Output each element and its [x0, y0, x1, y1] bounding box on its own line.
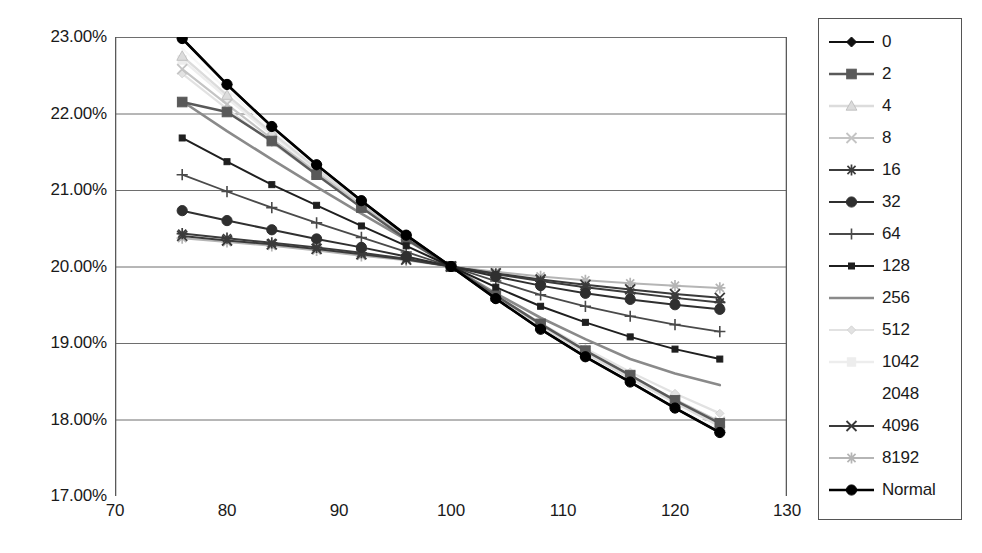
legend-swatch-icon	[828, 160, 875, 180]
legend-swatch-icon	[828, 288, 875, 308]
marker-plus	[356, 232, 367, 243]
plot-area	[115, 37, 787, 496]
series-32	[177, 206, 725, 315]
series-128	[179, 135, 723, 362]
marker-circle	[670, 300, 680, 310]
marker-circle	[715, 427, 725, 437]
marker-circle	[401, 251, 411, 261]
legend-item-1042[interactable]: 1042	[819, 346, 961, 378]
marker-plus	[177, 169, 188, 180]
series-line	[182, 39, 720, 433]
legend-swatch-icon	[828, 224, 875, 244]
marker-circle	[356, 196, 366, 206]
marker-asterisk	[714, 282, 725, 293]
y-tick-label: 20.00%	[51, 257, 107, 277]
marker-square	[267, 136, 277, 146]
marker-diamond	[847, 37, 857, 47]
legend-label: 64	[882, 224, 901, 244]
marker-plus	[625, 311, 636, 322]
marker-circle	[177, 37, 187, 44]
legend-label: 2048	[882, 384, 919, 404]
marker-plus	[266, 202, 277, 213]
legend-item-8192[interactable]: 8192	[819, 442, 961, 474]
marker-faint-square	[847, 358, 855, 366]
marker-small-square	[403, 243, 409, 249]
marker-circle	[312, 160, 322, 170]
legend-label: 16	[882, 160, 901, 180]
marker-circle	[536, 324, 546, 334]
marker-circle	[222, 216, 232, 226]
legend-item-64[interactable]: 64	[819, 218, 961, 250]
legend-item-128[interactable]: 128	[819, 250, 961, 282]
series-line	[182, 48, 720, 429]
legend-label: 0	[882, 32, 891, 52]
marker-plus	[580, 301, 591, 312]
marker-circle	[625, 377, 635, 387]
legend-label: 32	[882, 192, 901, 212]
marker-square	[222, 107, 232, 117]
legend-swatch-icon	[828, 96, 875, 116]
marker-small-square	[314, 202, 320, 208]
marker-circle	[846, 197, 856, 207]
legend-swatch-icon	[828, 192, 875, 212]
marker-small-square	[582, 319, 588, 325]
legend-label: 4096	[882, 416, 919, 436]
legend-item-512[interactable]: 512	[819, 314, 961, 346]
legend-item-8[interactable]: 8	[819, 122, 961, 154]
line-chart-svg	[115, 37, 787, 496]
marker-small-square	[269, 182, 275, 188]
legend-item-256[interactable]: 256	[819, 282, 961, 314]
series-line	[182, 39, 720, 433]
y-axis-tick-labels: 17.00%18.00%19.00%20.00%21.00%22.00%23.0…	[0, 0, 107, 553]
legend-item-2[interactable]: 2	[819, 58, 961, 90]
marker-circle	[580, 288, 590, 298]
marker-square	[312, 170, 322, 180]
marker-square	[847, 69, 857, 79]
marker-circle	[846, 485, 856, 495]
marker-asterisk	[221, 233, 232, 244]
legend-label: Normal	[882, 480, 936, 500]
marker-asterisk	[266, 237, 277, 248]
marker-square	[177, 97, 187, 107]
legend-item-16[interactable]: 16	[819, 154, 961, 186]
legend-swatch-icon	[828, 480, 875, 500]
legend-item-0[interactable]: 0	[819, 26, 961, 58]
marker-circle	[401, 230, 411, 240]
marker-small-square	[627, 334, 633, 340]
legend-label: 2	[882, 64, 891, 84]
marker-circle	[312, 234, 322, 244]
y-tick-label: 19.00%	[51, 333, 107, 353]
series-line	[182, 138, 720, 359]
marker-faint-diamond	[847, 326, 855, 334]
marker-plus	[311, 217, 322, 228]
legend-swatch-icon	[828, 416, 875, 436]
marker-circle	[356, 242, 366, 252]
marker-faint-diamond	[716, 409, 724, 417]
y-tick-label: 21.00%	[51, 180, 107, 200]
legend-label: 4	[882, 96, 891, 116]
y-tick-label: 18.00%	[51, 410, 107, 430]
marker-circle	[580, 352, 590, 362]
legend-item-4096[interactable]: 4096	[819, 410, 961, 442]
legend-item-4[interactable]: 4	[819, 90, 961, 122]
marker-circle	[446, 261, 456, 271]
marker-plus	[221, 186, 232, 197]
legend-item-32[interactable]: 32	[819, 186, 961, 218]
marker-circle	[267, 225, 277, 235]
series-64	[177, 169, 726, 337]
legend-swatch-icon	[828, 384, 875, 404]
legend-label: 8	[882, 128, 891, 148]
marker-circle	[625, 294, 635, 304]
x-tick-label: 130	[773, 501, 801, 521]
legend-item-Normal[interactable]: Normal	[819, 474, 961, 506]
y-tick-label: 22.00%	[51, 104, 107, 124]
legend-label: 512	[882, 320, 910, 340]
legend-item-2048[interactable]: 2048	[819, 378, 961, 410]
marker-small-square	[849, 263, 855, 269]
x-tick-label: 120	[661, 501, 689, 521]
marker-circle	[536, 281, 546, 291]
marker-plus	[714, 326, 725, 337]
marker-square	[715, 419, 725, 429]
legend-swatch-icon	[828, 32, 875, 52]
legend-swatch-icon	[828, 320, 875, 340]
